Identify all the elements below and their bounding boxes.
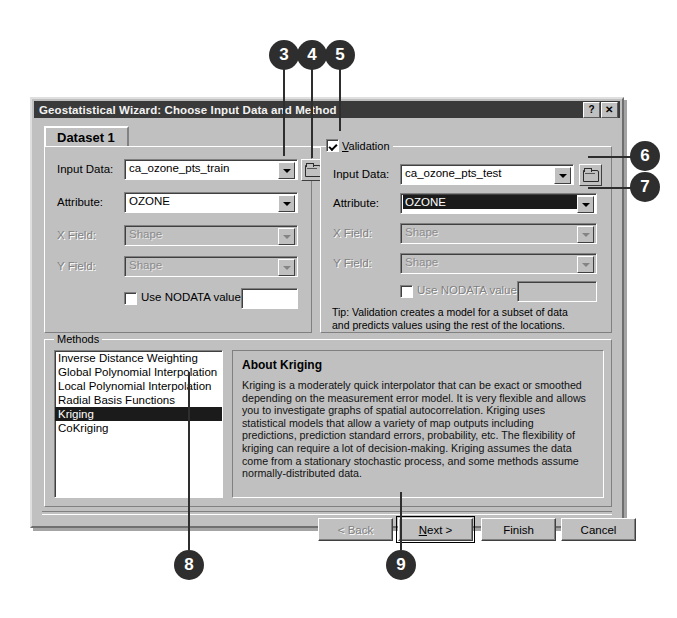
- about-panel: About Kriging Kriging is a moderately qu…: [232, 350, 604, 498]
- callout-leader-8: [188, 372, 190, 550]
- dialog-body: Dataset 1 Input Data: ca_ozone_pts_train…: [34, 120, 620, 524]
- chevron-down-icon: [278, 259, 295, 276]
- validation-input-data-value: ca_ozone_pts_test: [405, 167, 502, 179]
- back-button[interactable]: < Back: [318, 518, 393, 541]
- input-data-label: Input Data:: [57, 163, 113, 175]
- validation-panel: Validation Input Data: ca_ozone_pts_test…: [320, 146, 612, 333]
- validation-attribute-value: OZONE: [403, 195, 577, 209]
- chevron-down-icon: [577, 226, 594, 243]
- validation-use-nodata-checkbox: [400, 285, 413, 298]
- callout-leader-3: [283, 68, 285, 156]
- callout-4: 4: [297, 40, 327, 70]
- folder-icon: [305, 165, 321, 177]
- callout-6: 6: [630, 141, 660, 171]
- validation-tip: Tip: Validation creates a model for a su…: [332, 306, 588, 331]
- validation-y-field-value: Shape: [405, 256, 438, 268]
- use-nodata-checkbox[interactable]: [124, 292, 137, 305]
- x-field-label: X Field:: [57, 229, 96, 241]
- input-data-field[interactable]: ca_ozone_pts_train: [124, 159, 298, 180]
- validation-nodata-value-input: [517, 281, 597, 302]
- list-item[interactable]: Inverse Distance Weighting: [55, 351, 222, 365]
- validation-legend: Validation: [339, 140, 393, 152]
- attribute-field[interactable]: OZONE: [124, 192, 298, 213]
- callout-leader-7: [588, 187, 632, 189]
- close-icon[interactable]: ✕: [601, 102, 618, 118]
- callout-8: 8: [174, 550, 204, 580]
- button-separator: [42, 511, 612, 515]
- callout-9: 9: [386, 550, 416, 580]
- list-item-selected[interactable]: Kriging: [55, 407, 222, 421]
- browse-validation-input-button[interactable]: [579, 164, 602, 186]
- validation-checkbox[interactable]: [326, 139, 339, 152]
- validation-input-data-label: Input Data:: [333, 168, 389, 180]
- help-button[interactable]: ?: [583, 102, 600, 118]
- validation-x-field-value: Shape: [405, 226, 438, 238]
- chevron-down-icon[interactable]: [278, 195, 295, 212]
- validation-input-data-field[interactable]: ca_ozone_pts_test: [400, 164, 574, 185]
- validation-y-field-label: Y Field:: [333, 257, 372, 269]
- callout-leader-5: [339, 68, 341, 131]
- list-item[interactable]: Radial Basis Functions: [55, 393, 222, 407]
- list-item[interactable]: CoKriging: [55, 421, 222, 435]
- nodata-value-input[interactable]: [241, 288, 298, 309]
- validation-use-nodata-label: Use NODATA value:: [417, 284, 520, 296]
- methods-legend: Methods: [54, 333, 102, 345]
- validation-y-field-field: Shape: [400, 253, 597, 274]
- y-field-value: Shape: [129, 259, 162, 271]
- input-data-value: ca_ozone_pts_train: [129, 162, 229, 174]
- chevron-down-icon[interactable]: [278, 162, 295, 179]
- next-button[interactable]: Next >: [398, 518, 473, 541]
- attribute-value: OZONE: [129, 195, 170, 207]
- dataset-panel: Input Data: ca_ozone_pts_train Attribute…: [44, 146, 312, 333]
- y-field-label: Y Field:: [57, 260, 96, 272]
- chevron-down-icon[interactable]: [554, 167, 571, 184]
- use-nodata-label: Use NODATA value:: [141, 291, 244, 303]
- validation-x-field-label: X Field:: [333, 227, 372, 239]
- about-title: About Kriging: [242, 358, 322, 372]
- geostatistical-wizard-dialog: Geostatistical Wizard: Choose Input Data…: [30, 97, 624, 528]
- chevron-down-icon[interactable]: [577, 196, 594, 213]
- x-field-value: Shape: [129, 228, 162, 240]
- dialog-titlebar[interactable]: Geostatistical Wizard: Choose Input Data…: [34, 101, 620, 118]
- x-field-field: Shape: [124, 225, 298, 246]
- callout-3: 3: [269, 40, 299, 70]
- callout-7: 7: [630, 172, 660, 202]
- chevron-down-icon: [577, 256, 594, 273]
- list-item[interactable]: Local Polynomial Interpolation: [55, 379, 222, 393]
- methods-group: Methods Inverse Distance Weighting Globa…: [44, 339, 612, 507]
- validation-legend-rest: alidation: [349, 140, 390, 152]
- validation-attribute-field[interactable]: OZONE: [400, 193, 597, 214]
- attribute-label: Attribute:: [57, 196, 103, 208]
- chevron-down-icon: [278, 228, 295, 245]
- callout-leader-4: [311, 68, 313, 158]
- finish-button[interactable]: Finish: [481, 518, 556, 541]
- next-button-label: Next >: [419, 524, 453, 536]
- validation-x-field-field: Shape: [400, 223, 597, 244]
- about-text: Kriging is a moderately quick interpolat…: [242, 379, 590, 480]
- callout-leader-9: [400, 492, 402, 550]
- methods-listbox[interactable]: Inverse Distance Weighting Global Polyno…: [54, 350, 223, 498]
- list-item[interactable]: Global Polynomial Interpolation: [55, 365, 222, 379]
- cancel-button[interactable]: Cancel: [561, 518, 636, 541]
- validation-attribute-label: Attribute:: [333, 197, 379, 209]
- folder-icon: [583, 170, 599, 182]
- callout-leader-6: [588, 156, 632, 158]
- callout-5: 5: [325, 40, 355, 70]
- y-field-field: Shape: [124, 256, 298, 277]
